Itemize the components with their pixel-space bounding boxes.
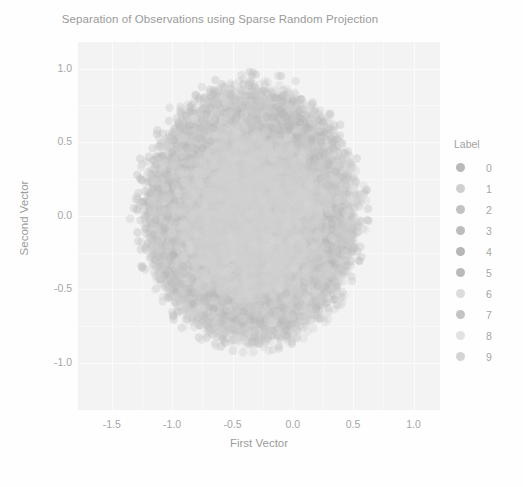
y-tick-label-0: 1.0 xyxy=(32,62,72,74)
legend-dot-icon xyxy=(456,247,465,256)
legend-dot-icon xyxy=(456,205,465,214)
legend-item-label: 5 xyxy=(486,267,492,279)
legend-item[interactable]: 0 xyxy=(452,157,518,178)
x-axis-tick-labels: -1.5-1.0-0.50.00.51.0 xyxy=(0,418,523,434)
legend-swatch-icon xyxy=(452,346,474,367)
chart-figure: Separation of Observations using Sparse … xyxy=(0,0,523,487)
legend-item-label: 4 xyxy=(486,246,492,258)
y-tick-label-1: 0.5 xyxy=(32,135,72,147)
y-tick-label-4: -1.0 xyxy=(32,356,72,368)
legend-swatch-icon xyxy=(452,220,474,241)
legend-items: 0123456789 xyxy=(452,157,518,367)
x-tick-label-5: 1.0 xyxy=(384,418,444,430)
x-tick-label-0: -1.5 xyxy=(82,418,142,430)
legend-item[interactable]: 4 xyxy=(452,241,518,262)
legend-item[interactable]: 6 xyxy=(452,283,518,304)
legend-swatch-icon xyxy=(452,241,474,262)
legend-item-label: 1 xyxy=(486,183,492,195)
legend-item[interactable]: 1 xyxy=(452,178,518,199)
legend-swatch-icon xyxy=(452,157,474,178)
legend-item[interactable]: 9 xyxy=(452,346,518,367)
scatter-points xyxy=(78,42,440,410)
legend-dot-icon xyxy=(456,226,465,235)
legend: Label 0123456789 xyxy=(452,138,518,367)
legend-dot-icon xyxy=(456,310,465,319)
legend-dot-icon xyxy=(456,331,465,340)
legend-item-label: 3 xyxy=(486,225,492,237)
x-tick-label-2: -0.5 xyxy=(203,418,263,430)
y-axis-tick-labels: 1.00.50.0-0.5-1.0 xyxy=(26,0,72,487)
y-tick-label-3: -0.5 xyxy=(32,282,72,294)
legend-dot-icon xyxy=(456,268,465,277)
y-tick-label-2: 0.0 xyxy=(32,209,72,221)
legend-swatch-icon xyxy=(452,304,474,325)
legend-dot-icon xyxy=(456,352,465,361)
legend-item-label: 2 xyxy=(486,204,492,216)
x-tick-label-4: 0.5 xyxy=(323,418,383,430)
legend-swatch-icon xyxy=(452,283,474,304)
legend-item-label: 8 xyxy=(486,330,492,342)
x-tick-label-3: 0.0 xyxy=(263,418,323,430)
legend-item-label: 0 xyxy=(486,162,492,174)
legend-item[interactable]: 8 xyxy=(452,325,518,346)
legend-dot-icon xyxy=(456,163,465,172)
x-tick-label-1: -1.0 xyxy=(142,418,202,430)
scatter-canvas xyxy=(78,42,440,410)
y-axis-label: Second Vector xyxy=(18,128,30,308)
x-axis-label: First Vector xyxy=(78,437,440,449)
legend-item-label: 6 xyxy=(486,288,492,300)
legend-title: Label xyxy=(454,138,518,150)
legend-dot-icon xyxy=(456,289,465,298)
legend-item[interactable]: 7 xyxy=(452,304,518,325)
legend-item-label: 9 xyxy=(486,351,492,363)
legend-swatch-icon xyxy=(452,199,474,220)
legend-swatch-icon xyxy=(452,262,474,283)
plot-panel xyxy=(78,42,440,410)
legend-swatch-icon xyxy=(452,178,474,199)
legend-item[interactable]: 3 xyxy=(452,220,518,241)
legend-dot-icon xyxy=(456,184,465,193)
legend-item[interactable]: 2 xyxy=(452,199,518,220)
legend-item-label: 7 xyxy=(486,309,492,321)
legend-swatch-icon xyxy=(452,325,474,346)
legend-item[interactable]: 5 xyxy=(452,262,518,283)
